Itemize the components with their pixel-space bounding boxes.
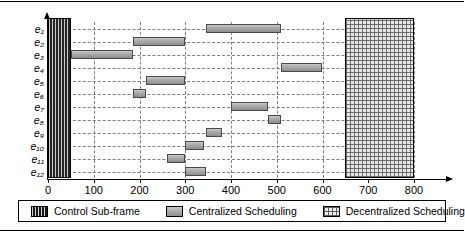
x-tick-label: 200 — [120, 184, 160, 196]
y-axis-tick-labels: e₁e₂e₃e₄e₅e₆e₇e₈e₉e₁₀e₁₁e₁₂ — [0, 22, 44, 178]
x-tick-mark — [140, 179, 141, 183]
x-tick-mark — [277, 179, 278, 183]
legend-swatch-decentralized-scheduling — [323, 206, 340, 217]
task-bar — [185, 141, 203, 150]
y-tick-label: e₁ — [35, 24, 44, 35]
x-tick-mark — [368, 179, 369, 183]
legend-swatch-centralized-scheduling — [166, 206, 183, 217]
x-tick-label: 300 — [165, 184, 205, 196]
task-bar — [281, 63, 322, 72]
gridline-vertical — [323, 22, 324, 178]
x-tick-label: 400 — [211, 184, 251, 196]
gridline-vertical — [185, 22, 186, 178]
x-tick-label: 0 — [28, 184, 68, 196]
figure-bottom-rule — [0, 230, 464, 231]
legend-swatch-control-sub-frame — [31, 206, 48, 217]
x-tick-mark — [231, 179, 232, 183]
y-tick-label: e₈ — [34, 115, 44, 126]
task-bar — [185, 167, 206, 176]
x-tick-mark — [48, 179, 49, 183]
task-bar — [206, 24, 281, 33]
x-tick-label: 100 — [74, 184, 114, 196]
x-tick-label: 600 — [303, 184, 343, 196]
task-bar — [231, 102, 268, 111]
legend-label-control-sub-frame: Control Sub-frame — [54, 205, 140, 217]
task-bar — [133, 37, 186, 46]
gridline-vertical — [277, 22, 278, 178]
y-tick-label: e₃ — [34, 50, 44, 61]
gridline-vertical — [94, 22, 95, 178]
x-tick-label: 500 — [257, 184, 297, 196]
chart-legend: Control Sub-frame Centralized Scheduling… — [18, 200, 446, 222]
task-bar — [167, 154, 185, 163]
plot-area — [48, 22, 414, 178]
x-axis-arrow-icon — [446, 176, 453, 182]
task-bar — [268, 115, 282, 124]
y-tick-label: e₁₀ — [30, 141, 44, 152]
task-bar — [146, 76, 185, 85]
y-tick-label: e₁₁ — [32, 154, 44, 165]
x-tick-label: 700 — [348, 184, 388, 196]
figure-top-rule — [0, 1, 464, 2]
legend-item-decentralized-scheduling: Decentralized Scheduling — [323, 205, 465, 217]
y-tick-label: e₄ — [34, 63, 44, 74]
x-tick-mark — [185, 179, 186, 183]
legend-label-centralized-scheduling: Centralized Scheduling — [189, 205, 297, 217]
legend-item-control-sub-frame: Control Sub-frame — [31, 205, 140, 217]
x-tick-mark — [323, 179, 324, 183]
y-tick-label: e₂ — [34, 37, 44, 48]
x-tick-mark — [94, 179, 95, 183]
legend-item-centralized-scheduling: Centralized Scheduling — [166, 205, 297, 217]
x-tick-mark — [414, 179, 415, 183]
gridline-vertical — [414, 22, 415, 178]
y-tick-label: e₁₂ — [31, 167, 44, 178]
legend-label-decentralized-scheduling: Decentralized Scheduling — [346, 205, 465, 217]
x-tick-label: 800 — [394, 184, 434, 196]
y-tick-label: e₉ — [34, 128, 44, 139]
task-bar — [206, 128, 222, 137]
gridline-vertical — [231, 22, 232, 178]
y-tick-label: e₇ — [34, 102, 44, 113]
y-tick-label: e₅ — [34, 76, 44, 87]
task-bar — [133, 89, 147, 98]
region-decentralized-scheduling — [345, 18, 414, 178]
region-control-sub-frame — [48, 18, 71, 178]
y-tick-label: e₆ — [34, 89, 44, 100]
task-bar — [71, 50, 133, 59]
x-axis-line — [47, 179, 447, 180]
